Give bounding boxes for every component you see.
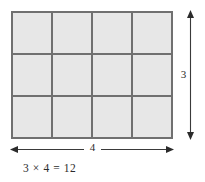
grid-cell: [133, 55, 172, 96]
area-model-figure: 4 3 3 × 4 = 12: [0, 0, 205, 182]
grid-cell: [53, 55, 92, 96]
grid-cell: [93, 97, 132, 138]
equation-caption: 3 × 4 = 12: [23, 162, 76, 175]
grid-cell: [13, 13, 52, 54]
grid-cell: [53, 13, 92, 54]
grid-cell: [133, 13, 172, 54]
grid-cell: [13, 55, 52, 96]
height-dimension-label: 3: [178, 69, 189, 80]
height-dimension-arrow: [176, 0, 205, 182]
grid-cell: [133, 97, 172, 138]
grid-cell: [13, 97, 52, 138]
grid-cell: [93, 13, 132, 54]
grid-cell: [93, 55, 132, 96]
grid-cell: [53, 97, 92, 138]
width-dimension-label: 4: [84, 142, 101, 153]
width-dimension-arrow: [0, 140, 205, 160]
rectangle-grid: [11, 11, 173, 139]
